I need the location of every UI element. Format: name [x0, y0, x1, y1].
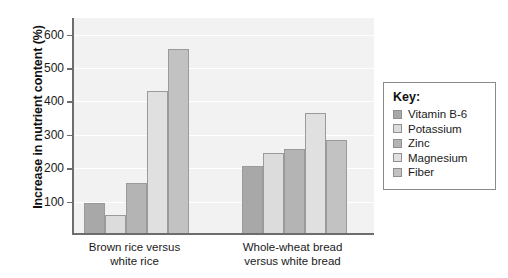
chart-legend: Key: Vitamin B-6PotassiumZincMagnesiumFi…	[383, 82, 496, 190]
legend-item[interactable]: Magnesium	[393, 152, 487, 164]
legend-swatch-icon	[393, 139, 402, 148]
legend-item-label: Magnesium	[408, 152, 467, 164]
x-axis-category-label: Brown rice versuswhite rice	[45, 240, 225, 269]
y-axis-tick-label: 100	[44, 195, 64, 209]
x-axis-label-line: Whole-wheat bread	[203, 240, 383, 254]
legend-item[interactable]: Vitamin B-6	[393, 108, 487, 120]
bar[interactable]	[284, 149, 305, 233]
x-axis-label-line: Brown rice versus	[45, 240, 225, 254]
legend-item-label: Zinc	[408, 137, 430, 149]
legend-items: Vitamin B-6PotassiumZincMagnesiumFiber	[393, 108, 487, 178]
bar[interactable]	[305, 113, 326, 233]
y-axis-tick	[67, 135, 74, 137]
plot-area: 100200300400500600	[72, 18, 374, 235]
bar[interactable]	[263, 153, 284, 233]
legend-item-label: Potassium	[408, 123, 462, 135]
y-axis-tick	[67, 101, 74, 103]
legend-swatch-icon	[393, 168, 402, 177]
bar[interactable]	[105, 215, 126, 233]
bar-chart-figure: Increase in nutrient content (%) 1002003…	[0, 0, 508, 278]
bar-group	[242, 18, 347, 233]
legend-item-label: Fiber	[408, 166, 434, 178]
legend-title: Key:	[393, 90, 487, 104]
bar-group	[84, 18, 189, 233]
legend-item[interactable]: Fiber	[393, 166, 487, 178]
y-axis-title: Increase in nutrient content (%)	[31, 17, 45, 217]
y-axis-tick-label: 300	[44, 128, 64, 142]
legend-swatch-icon	[393, 153, 402, 162]
legend-item[interactable]: Potassium	[393, 123, 487, 135]
x-axis-category-label: Whole-wheat breadversus white bread	[203, 240, 383, 269]
legend-swatch-icon	[393, 124, 402, 133]
y-axis-tick	[67, 168, 74, 170]
legend-swatch-icon	[393, 110, 402, 119]
y-axis-tick-label: 200	[44, 161, 64, 175]
bar[interactable]	[84, 203, 105, 233]
y-axis-tick-label: 400	[44, 94, 64, 108]
legend-item-label: Vitamin B-6	[408, 108, 467, 120]
bar[interactable]	[147, 91, 168, 233]
y-axis-tick	[67, 68, 74, 70]
y-axis-tick-label: 500	[44, 61, 64, 75]
legend-item[interactable]: Zinc	[393, 137, 487, 149]
bar[interactable]	[168, 49, 189, 233]
x-axis-label-line: white rice	[45, 254, 225, 268]
x-axis-label-line: versus white bread	[203, 254, 383, 268]
y-axis-tick	[67, 35, 74, 37]
bar[interactable]	[126, 183, 147, 233]
y-axis-tick	[67, 202, 74, 204]
y-axis-tick-label: 600	[44, 28, 64, 42]
bar[interactable]	[242, 166, 263, 233]
bar[interactable]	[326, 140, 347, 233]
